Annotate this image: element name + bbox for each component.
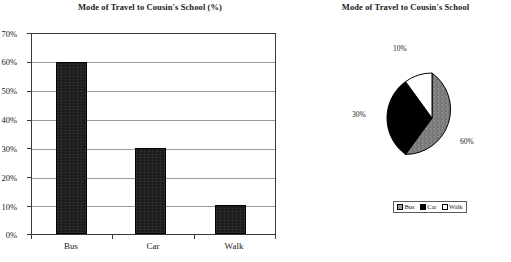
bar-plot-area [31,33,276,235]
legend-label-bus: Bus [405,203,415,211]
bar-chart-figure: Mode of Travel to Cousin's School (%) 70… [0,0,300,262]
bar-bus [56,62,87,234]
x-tick-mark-0 [31,235,32,239]
y-tick-label-70: 70% [0,29,17,39]
black-swatch-icon [420,204,426,210]
x-tick-mark-2 [194,235,195,239]
pie-chart-figure: Mode of Travel to Cousin's School 10% 30… [300,0,511,262]
x-tick-mark-1 [112,235,113,239]
gray-hatched-swatch-icon [397,204,403,210]
y-tick-label-20: 20% [0,173,17,183]
x-tick-label-walk: Walk [199,241,269,251]
pie-label-car: 30% [352,110,366,119]
bar-car [135,148,166,234]
white-swatch-icon [442,204,448,210]
pie-chart-title: Mode of Travel to Cousin's School [300,2,511,12]
x-tick-label-car: Car [118,241,188,251]
bar-chart-title: Mode of Travel to Cousin's School (%) [0,2,300,12]
y-tick-label-40: 40% [0,115,17,125]
pie-label-bus: 60% [460,137,474,146]
y-tick-label-0: 0% [0,230,17,240]
legend-label-car: Car [427,203,436,211]
pie-legend: Bus Car Walk [393,201,467,213]
legend-entry-car: Car [420,203,437,211]
legend-entry-bus: Bus [397,203,415,211]
x-tick-label-bus: Bus [36,241,106,251]
pie-svg [386,72,478,164]
legend-entry-walk: Walk [442,203,463,211]
bar-walk [215,205,246,234]
y-tick-label-10: 10% [0,202,17,212]
pie-graphic [386,72,478,164]
pie-label-walk: 10% [393,44,407,53]
y-tick-label-50: 50% [0,86,17,96]
y-tick-label-30: 30% [0,144,17,154]
legend-label-walk: Walk [449,203,463,211]
y-tick-label-60: 60% [0,57,17,67]
x-tick-mark-3 [275,235,276,239]
